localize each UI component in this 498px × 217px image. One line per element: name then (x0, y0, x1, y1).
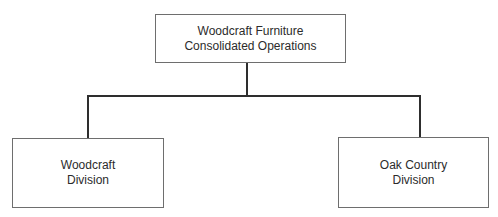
node-label-line: Oak Country (380, 158, 447, 173)
connector-right-vertical (419, 95, 421, 137)
org-node-root-consolidated-operations: Woodcraft Furniture Consolidated Operati… (155, 14, 346, 63)
node-label-line: Consolidated Operations (184, 39, 316, 54)
node-label-line: Division (67, 173, 109, 188)
connector-root-vertical (246, 63, 248, 96)
org-node-woodcraft-division: Woodcraft Division (12, 138, 164, 208)
connector-horizontal-bus (87, 95, 421, 97)
node-label-line: Woodcraft (61, 158, 115, 173)
node-label-line: Division (392, 173, 434, 188)
node-label-line: Woodcraft Furniture (198, 24, 304, 39)
connector-left-vertical (87, 95, 89, 138)
org-node-oak-country-division: Oak Country Division (338, 137, 489, 208)
